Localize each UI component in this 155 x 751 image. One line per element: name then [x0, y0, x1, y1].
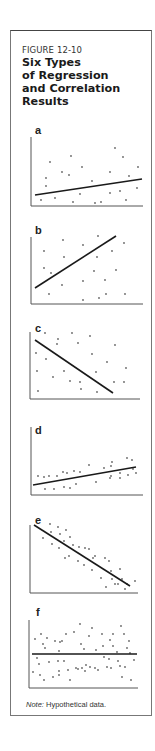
figure-note: Note: Hypothetical data. [26, 700, 106, 709]
data-point [136, 187, 138, 189]
data-point [110, 465, 112, 467]
data-point [110, 570, 112, 572]
data-point [106, 666, 108, 668]
data-point [79, 193, 81, 195]
axes-c [30, 332, 140, 399]
data-point [83, 648, 85, 650]
data-point [68, 174, 70, 176]
data-point [112, 633, 114, 635]
data-point [134, 580, 136, 582]
data-point [125, 199, 127, 201]
data-point [80, 643, 82, 645]
scatter-plots-canvas [0, 0, 155, 751]
regression-line-a [35, 179, 142, 195]
data-point [37, 390, 39, 392]
data-point [40, 633, 42, 635]
data-point [43, 476, 45, 478]
data-point [116, 651, 118, 653]
data-point [95, 371, 97, 373]
data-point [68, 555, 70, 557]
data-point [65, 633, 67, 635]
data-point [119, 472, 121, 474]
data-point [110, 667, 112, 669]
data-point [112, 645, 114, 647]
note-text: Hypothetical data. [44, 700, 106, 709]
data-point [63, 540, 65, 542]
data-point [133, 659, 135, 661]
data-point [85, 664, 87, 666]
data-point [45, 177, 47, 179]
data-point [117, 660, 119, 662]
data-point [37, 475, 39, 477]
data-point [123, 381, 125, 383]
data-point [80, 388, 82, 390]
data-point [69, 536, 71, 538]
scatter-plot-c [30, 332, 140, 399]
data-point [45, 358, 47, 360]
scatter-plot-d [31, 427, 143, 495]
data-point [114, 344, 116, 346]
data-point [91, 627, 93, 629]
data-point [58, 674, 60, 676]
data-point [49, 161, 51, 163]
data-point [56, 475, 58, 477]
data-point [81, 166, 83, 168]
data-point [79, 381, 81, 383]
data-point [38, 663, 40, 665]
data-point [120, 625, 122, 627]
data-point [54, 640, 56, 642]
data-point [44, 332, 46, 334]
data-point [72, 544, 74, 546]
data-point [54, 197, 56, 199]
data-point [82, 299, 84, 301]
data-point [36, 370, 38, 372]
data-point [82, 280, 84, 282]
data-point [77, 342, 79, 344]
data-point [119, 477, 121, 479]
data-point [125, 367, 127, 369]
data-point [96, 391, 98, 393]
data-point [67, 669, 69, 671]
scatter-plot-f [29, 620, 138, 688]
data-point [32, 671, 34, 673]
data-point [128, 640, 130, 642]
data-point [110, 475, 112, 477]
data-point [109, 477, 111, 479]
data-point [66, 472, 68, 474]
data-point [50, 272, 52, 274]
data-point [39, 674, 41, 676]
scatter-plot-a [31, 137, 143, 206]
data-point [84, 547, 86, 549]
data-point [63, 256, 65, 258]
data-point [56, 343, 58, 345]
data-point [115, 269, 117, 271]
data-point [70, 155, 72, 157]
scatter-plot-e [30, 523, 138, 593]
data-point [94, 555, 96, 557]
data-point [119, 190, 121, 192]
data-point [124, 293, 126, 295]
data-point [91, 569, 93, 571]
data-point [88, 464, 90, 466]
data-point [52, 676, 54, 678]
data-point [91, 353, 93, 355]
axes-b [31, 237, 143, 304]
data-point [104, 279, 106, 281]
data-point [64, 557, 66, 559]
regression-line-b [35, 236, 116, 288]
data-point [104, 557, 106, 559]
axes-e [30, 525, 138, 593]
data-point [63, 486, 65, 488]
data-point [100, 577, 102, 579]
data-point [91, 180, 93, 182]
data-point [96, 256, 98, 258]
data-point [117, 583, 119, 585]
data-point [94, 667, 96, 669]
data-point [95, 481, 97, 483]
data-point [59, 641, 61, 643]
data-point [105, 293, 107, 295]
data-point [73, 631, 75, 633]
data-point [72, 201, 74, 203]
data-point [89, 335, 91, 337]
data-point [109, 192, 111, 194]
